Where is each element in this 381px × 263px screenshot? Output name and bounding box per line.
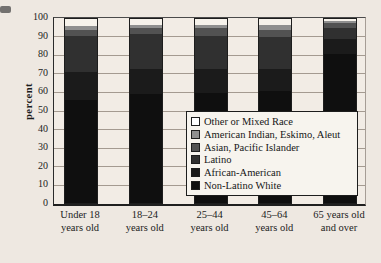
y-tick-label-40: 40 <box>18 124 48 134</box>
bar-segment <box>65 100 97 203</box>
y-tick-label-20: 20 <box>18 161 48 171</box>
bar-segment <box>130 94 162 203</box>
stacked-bar-2 <box>129 18 163 204</box>
legend-swatch-icon <box>191 130 200 139</box>
bar-segment <box>195 69 227 93</box>
legend-label: American Indian, Eskimo, Aleut <box>204 129 340 140</box>
legend-label: Latino <box>204 154 231 165</box>
x-tick-line1: 65 years old <box>296 209 381 222</box>
bar-segment <box>324 28 356 39</box>
bar-segment <box>65 19 97 26</box>
y-tick-label-90: 90 <box>18 31 48 41</box>
y-tick-label-50: 50 <box>18 105 48 115</box>
legend-swatch-icon <box>191 117 200 126</box>
legend-row: Other or Mixed Race <box>191 116 353 127</box>
y-tick-label-70: 70 <box>18 68 48 78</box>
bar-segment <box>259 69 291 91</box>
bar-segment <box>130 34 162 69</box>
y-tick-label-100: 100 <box>18 12 48 22</box>
x-tick-label-5: 65 years oldand over <box>296 209 381 234</box>
figure-canvas: percent 0102030405060708090100 Under 18y… <box>0 0 381 263</box>
legend-row: Asian, Pacific Islander <box>191 142 353 153</box>
legend-label: Other or Mixed Race <box>204 116 293 127</box>
legend-label: Non-Latino White <box>204 180 281 191</box>
bar-segment <box>259 30 291 37</box>
y-tick-label-30: 30 <box>18 142 48 152</box>
bar-segment <box>324 39 356 54</box>
legend-box: Other or Mixed RaceAmerican Indian, Eski… <box>186 111 358 196</box>
legend-row: Non-Latino White <box>191 180 353 191</box>
bar-segment <box>65 36 97 73</box>
legend-swatch-icon <box>191 181 200 190</box>
scan-artifact <box>0 6 11 13</box>
legend-swatch-icon <box>191 143 200 152</box>
legend-row: African-American <box>191 167 353 178</box>
legend-swatch-icon <box>191 168 200 177</box>
bar-segment <box>130 69 162 95</box>
legend-row: American Indian, Eskimo, Aleut <box>191 129 353 140</box>
legend-swatch-icon <box>191 155 200 164</box>
y-tick-label-0: 0 <box>18 198 48 208</box>
x-tick-line2: and over <box>296 222 381 235</box>
legend-row: Latino <box>191 154 353 165</box>
bar-segment <box>65 72 97 100</box>
legend-label: Asian, Pacific Islander <box>204 142 299 153</box>
bar-segment <box>195 36 227 69</box>
stacked-bar-1 <box>64 18 98 204</box>
bar-segment <box>195 28 227 35</box>
y-tick-label-10: 10 <box>18 179 48 189</box>
bar-segment <box>259 37 291 68</box>
y-tick-label-60: 60 <box>18 86 48 96</box>
y-tick-label-80: 80 <box>18 49 48 59</box>
legend-label: African-American <box>204 167 281 178</box>
